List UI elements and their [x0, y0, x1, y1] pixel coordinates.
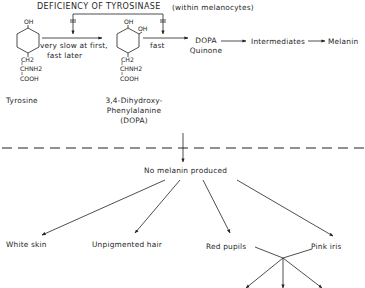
dopa-name-line2: Phenylalanine	[100, 106, 168, 115]
dopa-name-line1: 3,4-Dihydroxy-	[100, 96, 168, 105]
dopa-cooh: COOH	[120, 75, 139, 83]
no-melanin-label: No melanin produced	[144, 166, 227, 175]
effect-pink-iris: Pink iris	[311, 242, 341, 251]
dopa-oh-side: OH	[138, 25, 148, 33]
intermediates-label: Intermediates	[251, 37, 305, 46]
effect-white-skin: White skin	[6, 240, 47, 249]
dopa-quinone-line1: DOPA	[190, 36, 222, 45]
tyrosine-ring	[17, 28, 39, 53]
effect-red-pupils: Red pupils	[206, 242, 246, 251]
tyrosine-oh: OH	[24, 18, 34, 26]
dopa-ch2: CH2	[121, 56, 134, 64]
melanin-label: Melanin	[328, 37, 358, 46]
tyrosine-chnh2: CHNH2	[20, 65, 42, 73]
tyrosine-label: Tyrosine	[6, 96, 38, 105]
tyrosine-ch2: CH2	[21, 56, 34, 64]
effect-unpigmented-hair: Unpigmented hair	[92, 240, 162, 249]
dopa-chnh2: CHNH2	[120, 65, 142, 73]
title-note: (within melanocytes)	[172, 3, 254, 12]
dopa-ring	[117, 28, 139, 53]
step1-label-line1: very slow at first,	[40, 41, 108, 50]
dopa-quinone-line2: Quinone	[186, 46, 226, 55]
title-main: DEFICIENCY OF TYROSINASE	[37, 2, 161, 11]
step1-label-line2: fast later	[47, 51, 82, 60]
tyrosine-cooh: COOH	[20, 75, 39, 83]
step2-label: fast	[150, 41, 165, 50]
dopa-name-line3: (DOPA)	[100, 116, 168, 125]
dopa-oh-top: OH	[124, 18, 134, 26]
